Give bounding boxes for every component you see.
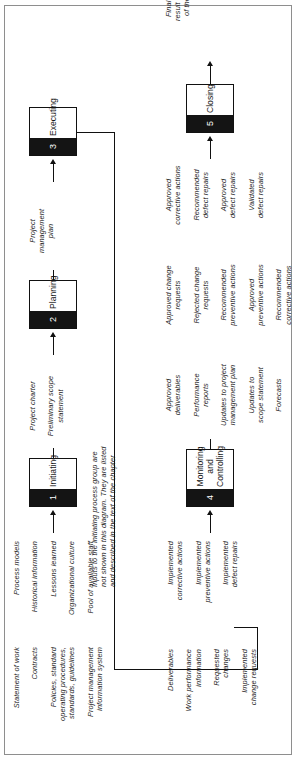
loop-line-top <box>114 132 115 670</box>
flow-initiating-to-planning: Project charter Preliminary scope statem… <box>28 360 65 452</box>
executing-outputs-column-a: Deliverables Work performance informatio… <box>166 649 258 755</box>
process-group-initiating-number: 1 <box>30 489 76 506</box>
arrow-to-closing-line <box>210 140 211 159</box>
process-group-closing-number: 5 <box>187 115 233 132</box>
inputs-column-b: Process models Historical information Le… <box>12 541 95 637</box>
arrow-to-monitoring-head <box>207 510 213 515</box>
arrow-to-monitoring-line <box>210 514 211 533</box>
monitoring-outputs-column-b: Approved change requests Rejected change… <box>164 247 293 343</box>
inputs-column-a: Statement of work Contracts Policies, st… <box>12 647 104 755</box>
process-group-initiating-label: Initiating <box>30 453 76 489</box>
process-group-monitoring-and-controlling[interactable]: 4 Monitoring and Controlling <box>186 449 234 507</box>
connector-initiating-stub <box>53 448 54 458</box>
arrow-closing-output-head <box>207 61 213 66</box>
flow-planning-to-executing: Project management plan <box>28 187 56 275</box>
arrow-to-executing-line <box>53 163 54 182</box>
arrow-to-executing-head <box>50 159 56 164</box>
page-frame: Statement of work Contracts Policies, st… <box>4 5 292 755</box>
process-group-planning[interactable]: 2 Planning <box>29 280 77 329</box>
process-group-planning-number: 2 <box>30 311 76 328</box>
executing-outputs-column-b: Implemented corrective actions Implement… <box>166 541 240 637</box>
arrow-to-planning-line <box>53 336 54 355</box>
process-group-executing-label: Executing <box>30 96 76 138</box>
arrow-to-planning-head <box>50 332 56 337</box>
arrow-closing-output-line <box>210 65 211 84</box>
process-group-closing[interactable]: 5 Closing <box>186 84 234 133</box>
process-group-executing-number: 3 <box>30 138 76 155</box>
arrow-to-closing-head <box>207 136 213 141</box>
process-group-diagram: Statement of work Contracts Policies, st… <box>4 5 292 755</box>
monitoring-outputs-column-c: Approved corrective actions Recommended … <box>164 147 265 243</box>
process-group-monitoring-number: 4 <box>187 489 233 506</box>
connector-planning-stub <box>53 270 54 280</box>
loop-line-right-riser <box>77 132 115 133</box>
process-group-executing[interactable]: 3 Executing <box>29 107 77 156</box>
monitoring-outputs-column-a: Approved deliverables Performance report… <box>164 347 284 443</box>
process-group-closing-label: Closing <box>187 82 233 115</box>
arrow-inputs-to-initiating-head <box>50 510 56 515</box>
arrow-inputs-to-initiating-line <box>53 514 54 533</box>
process-group-initiating[interactable]: 1 Initiating <box>29 458 77 507</box>
closing-output-label: Final product, result or service of the … <box>164 0 192 59</box>
process-group-monitoring-label: Monitoring and Controlling <box>187 444 233 489</box>
